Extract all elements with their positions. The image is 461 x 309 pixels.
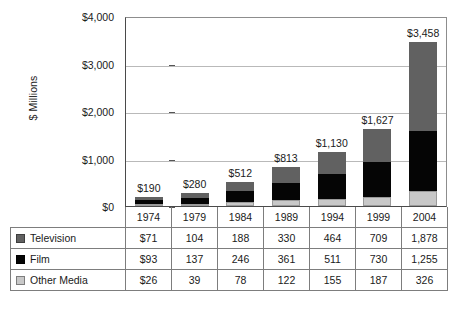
table-cell: 246	[218, 249, 264, 270]
bar-segment-other[interactable]	[272, 200, 300, 206]
table-row: Film$931372463615117301,255	[11, 249, 448, 270]
table-cell: 1,878	[402, 228, 448, 249]
table-cell: $71	[126, 228, 172, 249]
bar-total-label: $512	[229, 167, 252, 179]
bar-segment-film[interactable]	[318, 174, 346, 198]
table-cell: 361	[264, 249, 310, 270]
y-tick-label: $2,000	[52, 106, 114, 118]
table-cell: 1,255	[402, 249, 448, 270]
legend-item-television: Television	[11, 228, 126, 249]
legend-item-film: Film	[11, 249, 126, 270]
bar-slot: $190	[126, 18, 172, 206]
bar-total-label: $3,458	[407, 27, 439, 39]
x-axis-year-label: 1979	[172, 207, 218, 228]
bar-segment-tv[interactable]	[409, 42, 437, 131]
bar-stack[interactable]	[181, 193, 209, 206]
stacked-bar-chart-figure: $ Millions $0$1,000$2,000$3,000$4,000 $1…	[0, 0, 461, 309]
bar-segment-tv[interactable]	[318, 152, 346, 174]
legend-label: Film	[30, 253, 50, 265]
table-year-row: 1974197919841989199419992004	[11, 207, 448, 228]
bar-slot: $280	[172, 18, 218, 206]
bar-segment-tv[interactable]	[226, 182, 254, 191]
legend-label: Television	[30, 232, 76, 244]
table-cell: 464	[310, 228, 356, 249]
table-cell: 137	[172, 249, 218, 270]
data-table: 1974197919841989199419992004Television$7…	[10, 207, 448, 291]
bar-slot: $813	[263, 18, 309, 206]
bar-segment-other[interactable]	[409, 191, 437, 206]
table-corner-spacer	[11, 207, 126, 228]
table-cell: 326	[402, 270, 448, 291]
bar-segment-other[interactable]	[363, 197, 391, 206]
y-tick-label: $4,000	[52, 11, 114, 23]
x-axis-year-label: 1994	[310, 207, 356, 228]
bar-total-label: $190	[137, 182, 160, 194]
table-cell: $26	[126, 270, 172, 291]
bar-slot: $1,627	[355, 18, 401, 206]
x-axis-year-label: 2004	[402, 207, 448, 228]
bar-segment-film[interactable]	[363, 162, 391, 197]
bar-slot: $1,130	[309, 18, 355, 206]
bar-series-group: $190$280$512$813$1,130$1,627$3,458	[126, 18, 446, 206]
legend-swatch-icon	[16, 276, 25, 285]
x-axis-year-label: 1974	[126, 207, 172, 228]
table-cell: 155	[310, 270, 356, 291]
bar-stack[interactable]	[409, 42, 437, 206]
x-axis-year-label: 1984	[218, 207, 264, 228]
table-cell: 330	[264, 228, 310, 249]
legend-swatch-icon	[16, 255, 25, 264]
table-cell: 104	[172, 228, 218, 249]
legend-label: Other Media	[30, 274, 88, 286]
plot-area: $190$280$512$813$1,130$1,627$3,458	[125, 17, 447, 207]
legend-swatch-icon	[16, 234, 25, 243]
table-cell: 39	[172, 270, 218, 291]
bar-total-label: $1,130	[316, 137, 348, 149]
bar-slot: $512	[217, 18, 263, 206]
x-axis-year-label: 1989	[264, 207, 310, 228]
bar-segment-film[interactable]	[409, 131, 437, 191]
bar-segment-tv[interactable]	[272, 167, 300, 183]
legend-item-other-media: Other Media	[11, 270, 126, 291]
table-cell: 122	[264, 270, 310, 291]
bar-segment-other[interactable]	[226, 202, 254, 206]
x-axis-year-label: 1999	[356, 207, 402, 228]
bar-segment-other[interactable]	[318, 199, 346, 206]
bar-segment-film[interactable]	[226, 191, 254, 203]
bar-stack[interactable]	[272, 167, 300, 206]
bar-segment-other[interactable]	[181, 204, 209, 206]
bar-stack[interactable]	[226, 182, 254, 206]
bar-stack[interactable]	[318, 152, 346, 206]
y-axis-title: $ Millions	[27, 38, 39, 158]
table-row: Television$711041883304647091,878	[11, 228, 448, 249]
bar-slot: $3,458	[400, 18, 446, 206]
bar-total-label: $813	[274, 152, 297, 164]
table-cell: 730	[356, 249, 402, 270]
table-cell: 187	[356, 270, 402, 291]
bar-segment-tv[interactable]	[363, 129, 391, 163]
table-cell: 78	[218, 270, 264, 291]
table-cell: 709	[356, 228, 402, 249]
table-cell: $93	[126, 249, 172, 270]
bar-total-label: $1,627	[361, 114, 393, 126]
bar-segment-other[interactable]	[135, 204, 163, 206]
bar-segment-film[interactable]	[272, 183, 300, 200]
table-cell: 188	[218, 228, 264, 249]
table-cell: 511	[310, 249, 356, 270]
bar-total-label: $280	[183, 178, 206, 190]
bar-stack[interactable]	[135, 197, 163, 206]
table-row: Other Media$263978122155187326	[11, 270, 448, 291]
bar-stack[interactable]	[363, 129, 391, 206]
y-tick-label: $1,000	[52, 154, 114, 166]
y-tick-label: $3,000	[52, 59, 114, 71]
